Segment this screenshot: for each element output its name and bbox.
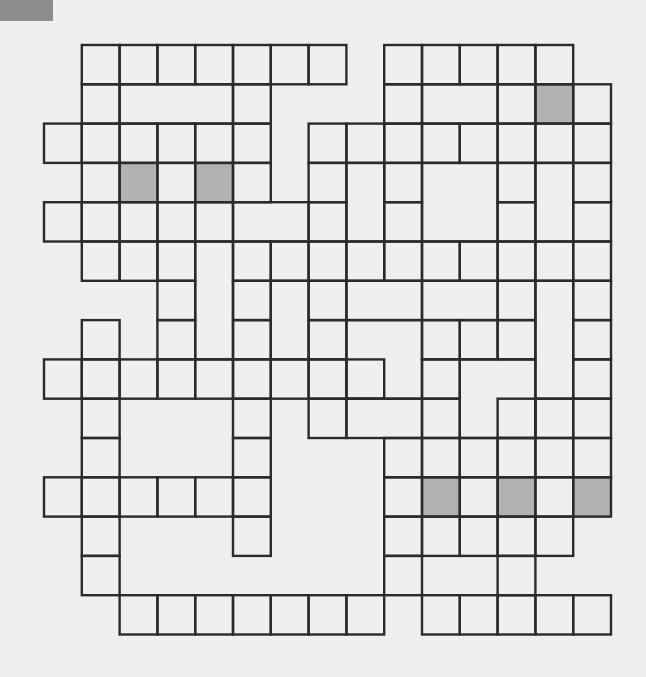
grid-cell[interactable] <box>233 359 271 398</box>
grid-cell[interactable] <box>422 163 498 242</box>
grid-cell[interactable] <box>271 242 309 281</box>
grid-cell[interactable] <box>233 84 271 123</box>
grid-cell[interactable] <box>233 124 271 163</box>
grid-cell[interactable] <box>573 124 611 163</box>
grid-cell[interactable] <box>157 202 195 241</box>
grid-cell[interactable] <box>82 517 120 556</box>
grid-cell[interactable] <box>120 359 158 398</box>
grid-cell[interactable] <box>498 556 536 595</box>
grid-cell[interactable] <box>195 242 233 360</box>
grid-cell[interactable] <box>271 281 309 360</box>
grid-cell[interactable] <box>271 359 309 398</box>
grid-cell[interactable] <box>535 595 573 634</box>
grid-cell[interactable] <box>157 281 195 320</box>
grid-cell[interactable] <box>195 45 233 84</box>
grid-cell[interactable] <box>120 84 233 123</box>
grid-cell[interactable] <box>195 477 233 516</box>
grid-cell[interactable] <box>82 124 120 163</box>
grid-cell[interactable] <box>309 242 347 281</box>
grid-cell[interactable] <box>573 320 611 359</box>
grid-cell[interactable] <box>573 438 611 477</box>
grid-cell[interactable] <box>573 359 611 398</box>
grid-cell[interactable] <box>44 202 82 241</box>
grid-cell[interactable] <box>384 242 422 281</box>
grid-cell[interactable] <box>195 202 233 241</box>
grid-cell[interactable] <box>384 163 422 202</box>
grid-cell[interactable] <box>309 45 347 84</box>
grid-cell[interactable] <box>157 242 195 281</box>
grid-cell[interactable] <box>535 399 573 438</box>
grid-cell[interactable] <box>157 595 195 634</box>
grid-cell[interactable] <box>346 595 384 634</box>
grid-cell[interactable] <box>82 359 120 398</box>
grid-cell[interactable] <box>573 163 611 202</box>
grid-cell[interactable] <box>384 124 422 163</box>
grid-cell[interactable] <box>309 281 347 320</box>
grid-cell[interactable] <box>82 438 120 477</box>
grid-cell[interactable] <box>498 242 536 281</box>
grid-cell[interactable] <box>309 163 347 202</box>
grid-cell[interactable] <box>535 517 573 556</box>
grid-cell[interactable] <box>498 124 536 163</box>
grid-cell[interactable] <box>573 202 611 241</box>
grid-cell[interactable] <box>535 477 573 516</box>
grid-cell[interactable] <box>384 84 422 123</box>
grid-cell[interactable] <box>233 477 271 516</box>
grid-cell[interactable] <box>233 517 271 556</box>
grid-cell[interactable] <box>120 242 158 281</box>
grid-cell[interactable] <box>309 124 347 163</box>
grid-cell[interactable] <box>309 399 347 438</box>
grid-cell[interactable] <box>498 595 536 634</box>
grid-cell[interactable] <box>535 281 573 399</box>
grid-cell[interactable] <box>573 242 611 281</box>
grid-cell[interactable] <box>233 163 271 202</box>
grid-cell[interactable] <box>384 477 422 516</box>
grid-cell[interactable] <box>384 45 422 84</box>
grid-cell[interactable] <box>498 45 536 84</box>
grid-cell[interactable] <box>157 124 195 163</box>
grid-cell[interactable] <box>346 124 384 163</box>
grid-cell[interactable] <box>82 202 120 241</box>
grid-cell[interactable] <box>498 399 536 438</box>
grid-cell[interactable] <box>157 163 195 202</box>
grid-cell[interactable] <box>233 202 309 241</box>
grid-cell[interactable] <box>573 281 611 320</box>
grid-cell[interactable] <box>82 320 120 359</box>
grid-cell[interactable] <box>44 124 82 163</box>
grid-cell[interactable] <box>82 556 120 595</box>
grid-cell[interactable] <box>120 202 158 241</box>
grid-cell[interactable] <box>44 477 82 516</box>
grid-cell[interactable] <box>82 477 120 516</box>
grid-cell[interactable] <box>233 45 271 84</box>
grid-cell[interactable] <box>384 438 422 477</box>
grid-cell[interactable] <box>195 359 233 398</box>
grid-cell[interactable] <box>460 320 498 359</box>
grid-cell[interactable] <box>535 124 573 163</box>
grid-cell[interactable] <box>460 438 498 477</box>
grid-cell[interactable] <box>346 359 384 398</box>
grid-cell[interactable] <box>82 399 120 438</box>
grid-cell[interactable] <box>535 242 573 281</box>
grid-cell[interactable] <box>535 163 573 242</box>
grid-cell[interactable] <box>460 242 498 281</box>
grid-cell[interactable] <box>498 84 536 123</box>
grid-cell[interactable] <box>233 595 271 634</box>
grid-cell[interactable] <box>384 202 422 241</box>
grid-cell[interactable] <box>498 202 536 241</box>
grid-cell[interactable] <box>309 359 347 398</box>
grid-cell[interactable] <box>157 477 195 516</box>
grid-cell[interactable] <box>309 202 347 241</box>
grid-cell[interactable] <box>422 84 498 123</box>
grid-cell[interactable] <box>346 281 422 320</box>
grid-cell[interactable] <box>233 320 271 359</box>
grid-cell[interactable] <box>422 281 498 320</box>
grid-cell[interactable] <box>460 124 498 163</box>
grid-cell[interactable] <box>498 281 536 320</box>
grid-cell[interactable] <box>460 517 498 556</box>
grid-cell[interactable] <box>120 595 158 634</box>
grid-cell[interactable] <box>573 399 611 438</box>
grid-cell[interactable] <box>422 359 460 398</box>
grid-cell[interactable] <box>82 163 120 202</box>
grid-cell[interactable] <box>309 595 347 634</box>
grid-cell[interactable] <box>346 163 384 242</box>
